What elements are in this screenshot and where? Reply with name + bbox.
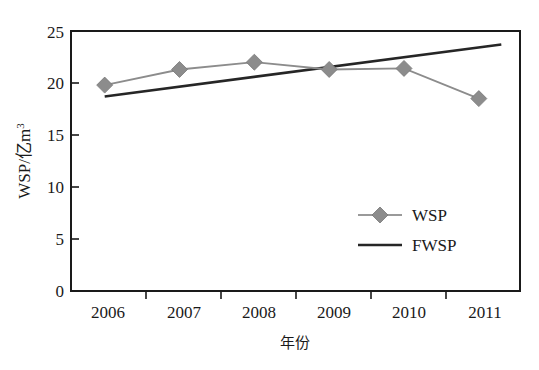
- x-tick-label-2007: 2007: [167, 303, 202, 322]
- x-tick-label-2009: 2009: [317, 303, 351, 322]
- y-tick-label-5: 5: [56, 230, 65, 249]
- y-tick-label-15: 15: [47, 126, 64, 145]
- chart-canvas: 0 5 10 15 20 25 2006 2007 2008 2009 2010…: [0, 0, 539, 370]
- x-axis-ticks: [146, 291, 446, 299]
- y-axis-title-main: WSP/亿m: [15, 129, 34, 199]
- chart-figure: 0 5 10 15 20 25 2006 2007 2008 2009 2010…: [0, 0, 539, 370]
- x-tick-labels: 2006 2007 2008 2009 2010 2011: [91, 303, 502, 322]
- y-axis-title-superscript: 3: [14, 123, 26, 129]
- legend-label-fwsp: FWSP: [412, 236, 456, 255]
- legend-label-wsp: WSP: [412, 206, 447, 225]
- y-tick-labels: 0 5 10 15 20 25: [47, 23, 64, 301]
- y-tick-label-0: 0: [56, 282, 65, 301]
- x-tick-label-2008: 2008: [242, 303, 276, 322]
- x-tick-label-2006: 2006: [91, 303, 125, 322]
- y-tick-label-10: 10: [47, 178, 64, 197]
- svg-text:WSP/亿m3: WSP/亿m3: [14, 123, 34, 199]
- y-axis-title: WSP/亿m3: [14, 123, 34, 199]
- x-tick-label-2010: 2010: [392, 303, 426, 322]
- y-tick-label-20: 20: [47, 74, 64, 93]
- x-tick-label-2011: 2011: [468, 303, 501, 322]
- x-axis-title: 年份: [280, 334, 310, 352]
- y-tick-label-25: 25: [47, 23, 64, 42]
